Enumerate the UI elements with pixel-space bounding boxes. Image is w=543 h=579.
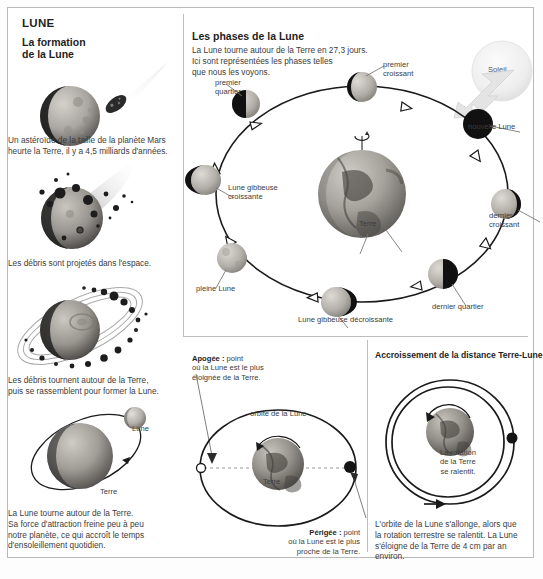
moon-gibbeuse-croissante: [185, 165, 221, 195]
distance-heading: Accroissement de la distance Terre-Lune: [375, 350, 542, 360]
formation-step-debris-art: [20, 152, 170, 257]
phase-label-line: quartier: [215, 87, 241, 96]
rotation-annotation: La rotation de la Terre se ralentit.: [440, 448, 476, 476]
phase-label-dernier-croissant: dernier croissant: [489, 211, 519, 230]
caption-line: La Lune tourne autour de la Terre.: [8, 508, 183, 519]
perigee-line1: Périgée : point: [240, 528, 360, 537]
rotation-line1: La rotation: [440, 448, 476, 457]
apogee-earth-label: Terre: [263, 477, 280, 486]
caption-line: Les débris tournent autour de la Terre,: [8, 375, 178, 386]
phase-label-line: croissante: [228, 192, 278, 201]
page-title: LUNE: [22, 17, 55, 29]
phase-label-line: premier: [383, 60, 413, 69]
formation-earth-label: Terre: [100, 487, 117, 496]
phase-label-dernier-quartier: dernier quartier: [432, 302, 484, 311]
perigee-line3: proche de la Terre.: [240, 547, 360, 556]
poster-root: LUNE La formation de la Lune: [0, 0, 543, 579]
phases-heading: Les phases de la Lune: [192, 30, 304, 43]
formation-step-debris-caption: Les débris sont projetés dans l'espace.: [8, 258, 178, 269]
apogee-orbit-diagram: [190, 380, 366, 530]
apogee-label-bold: Apogée :: [192, 354, 225, 363]
caption-line: L'orbite de la Lune s'allonge, alors que: [375, 519, 535, 530]
divider-horizontal-middle: [183, 336, 528, 337]
phase-label-line: Lune gibbeuse décroissante: [298, 315, 393, 324]
caption-line: s'éloigne de la Terre de 4 cm par an env…: [375, 541, 535, 563]
caption-line: Un astéroïde de la taille de la planète …: [8, 135, 178, 146]
phase-label-line: premier: [215, 78, 241, 87]
perigee-line2: où la Lune est le plus: [240, 537, 360, 546]
formation-step-ring-caption: Les débris tournent autour de la Terre, …: [8, 375, 178, 397]
apogee-line1: Apogée : point: [192, 354, 307, 363]
apogee-label-rest: point: [225, 354, 244, 363]
formation-step-orbit-caption: La Lune tourne autour de la Terre. Sa fo…: [8, 508, 183, 551]
phase-label-gibbeuse-croissante: Lune gibbeuse croissante: [228, 183, 278, 202]
phase-label-line: nouvelle Lune: [468, 122, 515, 131]
intro-line: La Lune tourne autour de la Terre en 27,…: [192, 45, 392, 56]
phase-label-line: croissant: [383, 69, 413, 78]
moon-gibbeuse-decroissante: [321, 287, 357, 317]
moon-pleine-lune: [217, 243, 247, 273]
phase-label-premier-quartier: premier quartier: [215, 78, 241, 97]
divider-vertical-bottom: [367, 340, 368, 552]
left-column-heading-line1: La formation: [22, 36, 86, 49]
moon-premier-croissant: [347, 72, 377, 102]
rotation-line3: se ralentit.: [440, 467, 476, 476]
phase-label-gibbeuse-decroissante: Lune gibbeuse décroissante: [298, 315, 393, 324]
apogee-annotation: Apogée : point où la Lune est le plus él…: [192, 354, 307, 382]
caption-line: la rotation terrestre se ralentit. La Lu…: [375, 530, 535, 541]
phase-label-line: croissant: [489, 220, 519, 229]
phase-label-line: pleine Lune: [196, 284, 235, 293]
phase-label-line: dernier quartier: [432, 302, 484, 311]
perigee-label-rest: point: [341, 528, 360, 537]
rotation-line2: de la Terre: [440, 457, 476, 466]
formation-step-ring-art: [18, 272, 173, 377]
distance-orbit-diagram: [378, 366, 528, 511]
caption-line: Les débris sont projetés dans l'espace.: [8, 258, 178, 269]
divider-vertical-left: [183, 14, 184, 336]
formation-moon-label: Lune: [132, 424, 149, 433]
phase-label-pleine-lune: pleine Lune: [196, 284, 235, 293]
phase-label-premier-croissant: premier croissant: [383, 60, 413, 79]
perigee-annotation: Périgée : point où la Lune est le plus p…: [240, 528, 360, 556]
phase-label-line: dernier: [489, 211, 519, 220]
distance-caption: L'orbite de la Lune s'allonge, alors que…: [375, 519, 535, 562]
phases-earth-label: Terre: [359, 219, 376, 228]
moon-dernier-quartier: [428, 259, 458, 289]
phase-label-line: Lune gibbeuse: [228, 183, 278, 192]
caption-line: Sa force d'attraction freine peu à peu: [8, 519, 183, 530]
phase-label-nouvelle-lune: nouvelle Lune: [468, 122, 515, 131]
formation-step-orbit-art: [18, 398, 173, 508]
caption-line: d'ensoleillement quotidien.: [8, 540, 183, 551]
caption-line: puis se rassemblent pour former la Lune.: [8, 386, 178, 397]
caption-line: notre planète, ce qui accroît le temps: [8, 530, 183, 541]
perigee-label-bold: Périgée :: [309, 528, 341, 537]
apogee-orbit-label: orbite de la Lune: [250, 409, 307, 418]
apogee-line2: où la Lune est le plus: [192, 363, 307, 372]
